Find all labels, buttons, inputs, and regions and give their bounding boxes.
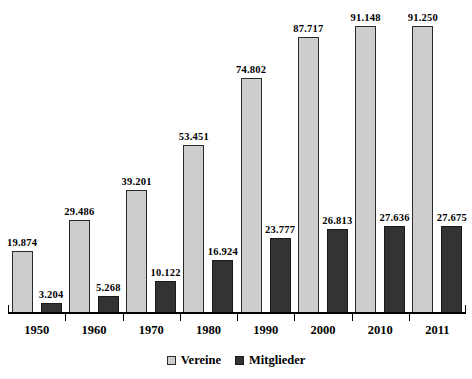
bar-value-label-vereine-2011: 91.250 [400, 12, 446, 23]
x-tick-label-2010: 2010 [352, 323, 409, 338]
x-tick-label-1980: 1980 [180, 323, 237, 338]
x-tick-label-1950: 1950 [8, 323, 65, 338]
bar-vereine-1970[interactable] [126, 190, 147, 313]
legend-item-vereine[interactable]: Vereine [167, 353, 221, 368]
axis-tick-end [465, 305, 466, 313]
bar-chart: 19.8743.20429.4865.26839.20110.12253.451… [0, 0, 472, 379]
bar-value-label-vereine-1990: 74.802 [228, 64, 274, 75]
axis-tick-2011 [409, 314, 410, 321]
bar-vereine-1980[interactable] [183, 145, 204, 313]
axis-tick-1970 [123, 314, 124, 321]
bar-group-2000: 87.71726.813 [294, 0, 351, 313]
axis-tick-2010 [352, 314, 353, 321]
plot-area: 19.8743.20429.4865.26839.20110.12253.451… [8, 0, 466, 313]
bar-value-label-vereine-1980: 53.451 [171, 131, 217, 142]
bar-value-label-vereine-1970: 39.201 [114, 176, 160, 187]
axis-tick-1960 [65, 314, 66, 321]
axis-tick-2000 [294, 314, 295, 321]
bar-group-1970: 39.20110.122 [123, 0, 180, 313]
x-tick-label-1990: 1990 [237, 323, 294, 338]
bar-mitglieder-2000[interactable] [327, 229, 348, 313]
bar-mitglieder-1980[interactable] [212, 260, 233, 313]
x-tick-label-2000: 2000 [294, 323, 351, 338]
axis-tick-1980 [180, 314, 181, 321]
x-axis-labels: 19501960197019801990200020102011 [8, 323, 466, 343]
bar-vereine-1950[interactable] [12, 251, 33, 314]
x-tick-label-1960: 1960 [65, 323, 122, 338]
bar-vereine-1990[interactable] [241, 78, 262, 313]
bar-group-2010: 91.14827.636 [352, 0, 409, 313]
bar-value-label-mitglieder-2011: 27.675 [429, 212, 472, 223]
bar-mitglieder-1960[interactable] [98, 296, 119, 313]
bar-mitglieder-2011[interactable] [441, 226, 462, 313]
bar-group-1980: 53.45116.924 [180, 0, 237, 313]
bar-mitglieder-1970[interactable] [155, 281, 176, 313]
bar-vereine-2000[interactable] [298, 37, 319, 313]
x-tick-label-1970: 1970 [123, 323, 180, 338]
bar-value-label-vereine-1960: 29.486 [56, 206, 102, 217]
bar-value-label-vereine-2010: 91.148 [343, 12, 389, 23]
axis-tick-1990 [237, 314, 238, 321]
axis-tick-1950 [8, 305, 9, 313]
legend-label-mitglieder: Mitglieder [249, 353, 305, 368]
bar-group-1990: 74.80223.777 [237, 0, 294, 313]
bar-mitglieder-2010[interactable] [384, 226, 405, 313]
legend-swatch-icon-vereine [167, 356, 176, 365]
bar-vereine-1960[interactable] [69, 220, 90, 313]
bar-value-label-vereine-1950: 19.874 [0, 237, 45, 248]
bar-vereine-2010[interactable] [355, 26, 376, 313]
x-tick-label-2011: 2011 [409, 323, 466, 338]
bar-value-label-vereine-2000: 87.717 [285, 23, 331, 34]
bar-vereine-2011[interactable] [412, 26, 433, 313]
chart-legend: VereineMitglieder [0, 353, 472, 368]
legend-item-mitglieder[interactable]: Mitglieder [235, 353, 305, 368]
legend-label-vereine: Vereine [181, 353, 221, 368]
legend-swatch-icon-mitglieder [235, 356, 244, 365]
bar-group-2011: 91.25027.675 [409, 0, 466, 313]
bar-mitglieder-1990[interactable] [270, 238, 291, 313]
bar-group-1950: 19.8743.204 [8, 0, 65, 313]
bar-group-1960: 29.4865.268 [65, 0, 122, 313]
